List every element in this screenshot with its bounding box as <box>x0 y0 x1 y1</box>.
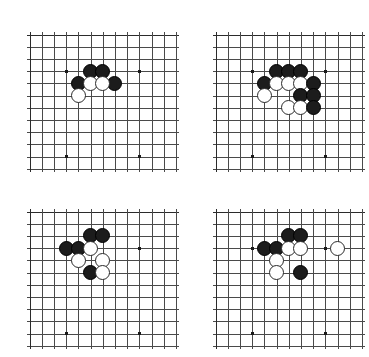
goban-grid <box>208 27 369 176</box>
board-bottom-right[interactable] <box>208 204 369 353</box>
white-stone[interactable] <box>330 241 345 256</box>
black-stone[interactable] <box>95 228 110 243</box>
goban-grid <box>22 27 183 176</box>
white-stone[interactable] <box>71 88 86 103</box>
white-stone[interactable] <box>95 265 110 280</box>
stone-layer <box>22 27 183 176</box>
white-stone[interactable] <box>257 88 272 103</box>
goban-grid <box>208 204 369 353</box>
white-stone[interactable] <box>269 265 284 280</box>
board-top-right[interactable] <box>208 27 369 176</box>
stone-layer <box>22 204 183 353</box>
white-stone[interactable] <box>83 241 98 256</box>
black-stone[interactable] <box>293 265 308 280</box>
white-stone[interactable] <box>293 241 308 256</box>
stone-layer <box>208 204 369 353</box>
board-bottom-left[interactable] <box>22 204 183 353</box>
stone-layer <box>208 27 369 176</box>
black-stone[interactable] <box>306 100 321 115</box>
white-stone[interactable] <box>95 76 110 91</box>
board-top-left[interactable] <box>22 27 183 176</box>
goban-grid <box>22 204 183 353</box>
white-stone[interactable] <box>71 253 86 268</box>
